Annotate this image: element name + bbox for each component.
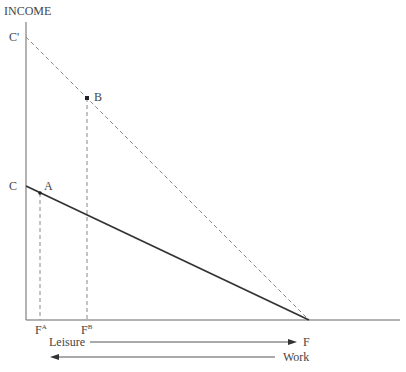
leisure-label: Leisure: [49, 336, 85, 348]
point-a-marker: [38, 191, 42, 195]
point-b-marker: [85, 96, 89, 100]
y-axis-label: INCOME: [4, 5, 51, 17]
work-label: Work: [283, 351, 309, 363]
point-b-label: B: [94, 91, 102, 103]
diagram-canvas: [0, 0, 406, 372]
tick-fb-sup: B: [88, 323, 93, 331]
point-c-label: C: [9, 180, 17, 192]
tick-fa-base: F: [35, 323, 42, 337]
tick-fa: FA: [35, 324, 47, 336]
leisure-arrowhead-icon: [288, 339, 297, 345]
point-f-label: F: [303, 336, 310, 348]
budget-line-high: [26, 37, 309, 320]
point-c-prime-label: C': [9, 31, 19, 43]
tick-fa-sup: A: [42, 323, 47, 331]
budget-line-low: [26, 186, 309, 320]
point-a-label: A: [44, 180, 53, 192]
work-arrowhead-icon: [50, 354, 59, 360]
